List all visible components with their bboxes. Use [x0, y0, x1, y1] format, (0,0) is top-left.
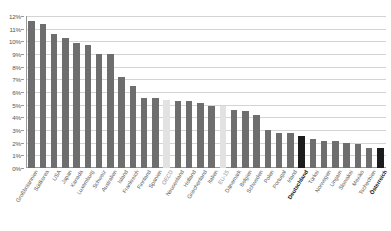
- bar[interactable]: [40, 24, 47, 168]
- x-axis: GroßbritannienSüdkoreaUSAJapanKanadaLuxe…: [26, 169, 386, 231]
- bar[interactable]: [310, 139, 317, 168]
- bar[interactable]: [175, 101, 182, 168]
- bar[interactable]: [141, 98, 148, 168]
- bar[interactable]: [186, 101, 193, 168]
- bar[interactable]: [152, 98, 159, 168]
- y-axis-tick-mark: [21, 117, 24, 118]
- bar[interactable]: [265, 130, 272, 168]
- y-axis-tick-label: 12%: [9, 13, 21, 20]
- bar-chart: 0%1%2%3%4%5%6%7%8%9%10%11%12% Großbritan…: [0, 0, 391, 231]
- bar[interactable]: [85, 45, 92, 168]
- y-axis-tick-label: 3%: [12, 127, 21, 134]
- bar[interactable]: [118, 77, 125, 168]
- y-axis-tick-mark: [21, 16, 24, 17]
- y-axis-tick-label: 10%: [9, 38, 21, 45]
- bar[interactable]: [377, 148, 384, 168]
- y-axis-tick-label: 2%: [12, 139, 21, 146]
- y-axis-tick-mark: [21, 155, 24, 156]
- bar[interactable]: [96, 54, 103, 168]
- y-axis-tick-mark: [21, 67, 24, 68]
- bars-layer: [26, 16, 386, 168]
- y-axis: 0%1%2%3%4%5%6%7%8%9%10%11%12%: [0, 16, 24, 168]
- bar[interactable]: [62, 38, 69, 168]
- bar[interactable]: [242, 111, 249, 168]
- y-axis-tick-mark: [21, 29, 24, 30]
- bar[interactable]: [107, 54, 114, 168]
- y-axis-tick-mark: [21, 143, 24, 144]
- y-axis-tick-label: 7%: [12, 76, 21, 83]
- bar[interactable]: [220, 106, 227, 168]
- bar[interactable]: [253, 115, 260, 168]
- bar[interactable]: [343, 143, 350, 168]
- bar[interactable]: [287, 133, 294, 168]
- bar[interactable]: [28, 21, 35, 168]
- y-axis-tick-mark: [21, 79, 24, 80]
- y-axis-tick-label: 9%: [12, 51, 21, 58]
- y-axis-tick-label: 11%: [9, 25, 21, 32]
- bar[interactable]: [73, 43, 80, 168]
- y-axis-tick-mark: [21, 92, 24, 93]
- bar[interactable]: [298, 136, 305, 168]
- y-axis-tick-label: 4%: [12, 114, 21, 121]
- y-axis-tick-label: 0%: [12, 165, 21, 172]
- bar[interactable]: [332, 141, 339, 168]
- bar[interactable]: [355, 144, 362, 168]
- y-axis-tick-label: 8%: [12, 63, 21, 70]
- y-axis-tick-mark: [21, 130, 24, 131]
- bar[interactable]: [51, 34, 58, 168]
- y-axis-tick-label: 6%: [12, 89, 21, 96]
- bar[interactable]: [163, 100, 170, 168]
- bar[interactable]: [321, 141, 328, 168]
- y-axis-tick-label: 1%: [12, 152, 21, 159]
- bar[interactable]: [276, 133, 283, 168]
- bar[interactable]: [197, 103, 204, 168]
- y-axis-tick-mark: [21, 105, 24, 106]
- y-axis-tick-mark: [21, 168, 24, 169]
- bar[interactable]: [366, 148, 373, 168]
- bar[interactable]: [231, 110, 238, 168]
- bar[interactable]: [208, 106, 215, 168]
- y-axis-tick-mark: [21, 41, 24, 42]
- y-axis-tick-label: 5%: [12, 101, 21, 108]
- y-axis-tick-mark: [21, 54, 24, 55]
- bar[interactable]: [130, 86, 137, 168]
